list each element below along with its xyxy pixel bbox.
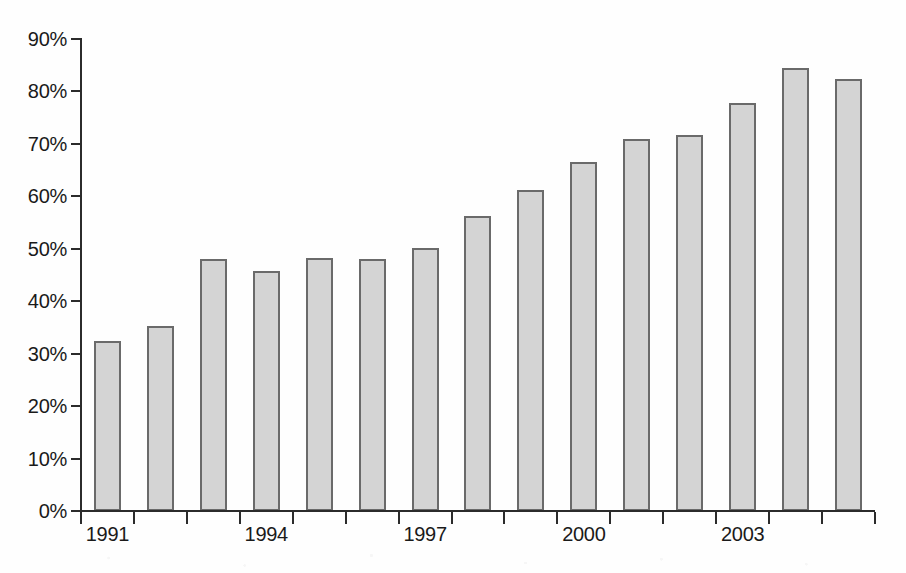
y-axis-tick-label: 60% [5,186,67,206]
bar [729,103,756,511]
x-axis-tick [503,512,505,524]
bar [570,162,597,511]
x-axis-line [80,510,875,512]
y-axis-tick-label: 40% [5,291,67,311]
bar [306,258,333,511]
x-axis-tick [662,512,664,524]
x-axis-tick-label: 1997 [385,524,465,544]
scan-artifact [0,548,906,573]
bar [200,259,227,511]
x-axis-tick [292,512,294,524]
x-axis-tick [186,512,188,524]
x-axis-tick [874,512,876,524]
y-axis-line [80,38,82,513]
x-axis-tick [821,512,823,524]
bar [464,216,491,511]
x-axis-tick [239,512,241,524]
x-axis-tick [451,512,453,524]
bar [517,190,544,511]
bar [782,68,809,511]
bar [359,259,386,511]
y-axis-tick-label: 70% [5,134,67,154]
bar [412,248,439,511]
x-axis-tick [556,512,558,524]
y-axis-tick-label: 0% [5,501,67,521]
y-axis-tick-label: 20% [5,396,67,416]
bar [253,271,280,511]
y-axis-tick-label: 30% [5,344,67,364]
bar-chart: 90%80%70%60%50%40%30%20%10%0% 1991199419… [0,0,906,573]
y-axis-tick-label: 80% [5,81,67,101]
bar [676,135,703,511]
x-axis-tick-label: 2003 [703,524,783,544]
x-axis-tick [345,512,347,524]
bar [623,139,650,511]
y-axis-tick-label: 90% [5,29,67,49]
x-axis-tick [609,512,611,524]
x-axis-tick-label: 1991 [67,524,147,544]
y-axis-tick-label: 50% [5,239,67,259]
x-axis-tick [715,512,717,524]
bar [94,341,121,511]
x-axis-tick [80,512,82,524]
x-axis-tick [133,512,135,524]
x-axis-tick-label: 2000 [544,524,624,544]
x-axis-tick [768,512,770,524]
bar [835,79,862,511]
bar [147,326,174,511]
x-axis-tick-label: 1994 [226,524,306,544]
x-axis-tick [398,512,400,524]
y-axis-tick-label: 10% [5,449,67,469]
